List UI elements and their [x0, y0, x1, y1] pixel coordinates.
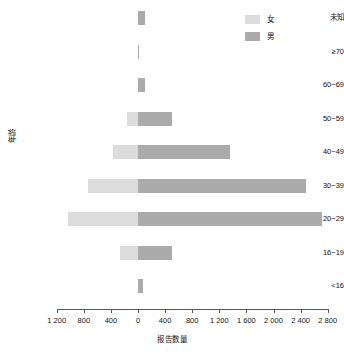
x-axis-tick — [328, 309, 329, 313]
x-axis-tick — [274, 309, 275, 313]
bar-male — [138, 279, 143, 293]
x-axis-tick-label: 800 — [78, 316, 91, 325]
x-axis-tick — [219, 309, 220, 313]
x-axis-tick — [192, 309, 193, 313]
x-axis-tick-label: 400 — [159, 316, 172, 325]
age-group-label: 16~19 — [216, 238, 344, 268]
x-axis-tick-label: 1 600 — [237, 316, 256, 325]
x-axis-tick-label: 0 — [136, 316, 140, 325]
pyramid-row: 60~69 — [0, 70, 344, 100]
pyramid-row: 50~59 — [0, 104, 344, 134]
age-group-label: 40~49 — [216, 137, 344, 167]
age-group-label: 未知 — [216, 3, 344, 33]
bar-female — [113, 145, 138, 159]
pyramid-row: 30~39 — [0, 171, 344, 201]
bar-male — [138, 179, 306, 193]
x-axis-tick — [138, 309, 139, 313]
x-axis-title: 报告数量 — [0, 333, 344, 344]
x-axis-tick-label: 2 800 — [318, 316, 337, 325]
bar-male — [138, 246, 172, 260]
bar-male — [138, 11, 145, 25]
x-axis-tick-label: 400 — [105, 316, 118, 325]
bar-female — [68, 212, 138, 226]
pyramid-row: <16 — [0, 271, 344, 301]
legend-swatch-icon — [245, 15, 260, 24]
bar-male — [138, 212, 322, 226]
pyramid-row: 未知 — [0, 3, 344, 33]
pyramid-row: 20~29 — [0, 204, 344, 234]
x-axis-tick — [246, 309, 247, 313]
bar-male — [138, 145, 230, 159]
population-pyramid-chart: 年龄 未知≥7060~6950~5940~4930~3920~2916~19<1… — [0, 0, 344, 363]
bar-female — [127, 112, 138, 126]
pyramid-row: 40~49 — [0, 137, 344, 167]
age-group-label: 60~69 — [216, 70, 344, 100]
bar-male — [138, 45, 139, 59]
x-axis-tick-label: 1 200 — [47, 316, 66, 325]
legend-swatch-icon — [245, 32, 260, 41]
x-axis-tick — [84, 309, 85, 313]
bar-female — [120, 246, 138, 260]
age-group-label: 50~59 — [216, 104, 344, 134]
x-axis-tick-label: 2 400 — [291, 316, 310, 325]
bar-male — [138, 112, 172, 126]
x-axis-tick-label: 2 000 — [264, 316, 283, 325]
x-axis-tick-label: 1 200 — [210, 316, 229, 325]
legend-label: 男 — [267, 31, 274, 42]
x-axis: 报告数量 1 20080040004008001 2001 6002 0002 … — [0, 309, 344, 363]
pyramid-row: ≥70 — [0, 37, 344, 67]
age-group-label: <16 — [216, 271, 344, 301]
x-axis-tick — [111, 309, 112, 313]
age-group-label: ≥70 — [216, 37, 344, 67]
x-axis-tick — [165, 309, 166, 313]
bar-female — [88, 179, 138, 193]
x-axis-tick — [57, 309, 58, 313]
x-axis-tick — [301, 309, 302, 313]
x-axis-tick-label: 800 — [186, 316, 199, 325]
plot-area: 未知≥7060~6950~5940~4930~3920~2916~19<16 — [0, 0, 344, 305]
bar-male — [138, 78, 145, 92]
legend-label: 女 — [267, 14, 274, 25]
pyramid-row: 16~19 — [0, 238, 344, 268]
